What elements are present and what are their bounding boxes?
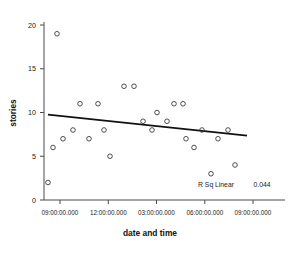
y-axis-ticks (40, 25, 44, 200)
data-point (87, 136, 92, 141)
chart-canvas: 20 15 10 5 0 09:00:00.000 12:00:00.000 0… (0, 0, 299, 254)
data-point (141, 119, 146, 124)
data-point (55, 31, 60, 36)
data-point (172, 101, 177, 106)
y-tick-label: 10 (28, 108, 36, 117)
data-point (102, 128, 107, 133)
data-point (108, 154, 113, 159)
data-point (71, 128, 76, 133)
linear-fit-line (48, 115, 247, 136)
data-point (184, 136, 189, 141)
data-point (61, 136, 66, 141)
x-axis-tick-labels: 09:00:00.000 12:00:00.000 03:00:00.000 0… (42, 209, 272, 216)
r-squared-value: 0.044 (253, 181, 270, 188)
x-tick-label: 03:00:00.000 (138, 209, 175, 216)
y-axis-title: stories (8, 99, 18, 127)
data-point (181, 101, 186, 106)
data-point (216, 136, 221, 141)
y-axis-tick-labels: 20 15 10 5 0 (28, 21, 36, 205)
data-point (78, 101, 83, 106)
data-points-group (46, 31, 238, 184)
x-tick-label: 06:00:00.000 (186, 209, 223, 216)
data-point (226, 128, 231, 133)
x-tick-label: 12:00:00.000 (90, 209, 127, 216)
data-point (150, 128, 155, 133)
data-point (165, 119, 170, 124)
y-tick-label: 20 (28, 21, 36, 30)
x-tick-label: 09:00:00.000 (235, 209, 272, 216)
data-point (192, 145, 197, 150)
data-point (51, 145, 56, 150)
y-tick-label: 5 (32, 152, 36, 161)
x-axis-ticks (60, 200, 253, 204)
data-point (132, 84, 137, 89)
data-point (122, 84, 127, 89)
data-point (233, 163, 238, 168)
y-tick-label: 15 (28, 64, 36, 73)
data-point (96, 101, 101, 106)
data-point (209, 171, 214, 176)
data-point (46, 180, 51, 185)
y-tick-label: 0 (32, 196, 36, 205)
scatter-plot-figure: 20 15 10 5 0 09:00:00.000 12:00:00.000 0… (0, 0, 299, 254)
data-point (155, 110, 160, 115)
r-squared-label: R Sq Linear (198, 181, 235, 189)
x-tick-label: 09:00:00.000 (42, 209, 79, 216)
x-axis-title: date and time (123, 228, 177, 238)
